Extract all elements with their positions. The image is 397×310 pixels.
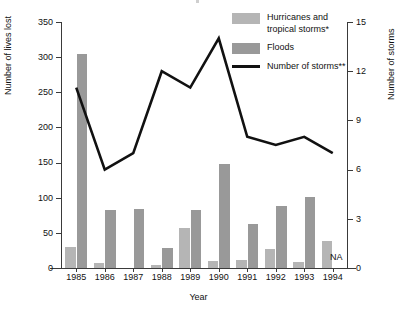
y-right-tick-3: 3 (356, 214, 382, 224)
y-right-tickmark-0 (348, 268, 353, 269)
x-tick-mark-1993 (304, 268, 305, 272)
y-left-tick-150: 150 (27, 157, 53, 167)
y-right-tickmark-9 (348, 120, 353, 121)
x-tick-mark-1989 (190, 268, 191, 272)
x-tick-mark-1991 (247, 268, 248, 272)
legend-item-floods: Floods (232, 42, 352, 54)
y-left-tick-100: 100 (27, 193, 53, 203)
legend-item-storms: Number of storms** (232, 61, 352, 73)
legend-swatch-hurricanes-icon (232, 13, 260, 24)
y-left-tickmark-200 (56, 127, 61, 128)
y-left-tick-200: 200 (27, 122, 53, 132)
legend-label-storms: Number of storms** (267, 61, 346, 73)
y-right-tick-9: 9 (356, 115, 382, 125)
y-left-tickmark-300 (56, 57, 61, 58)
y-left-tick-0: 0 (27, 263, 53, 273)
y-left-tick-50: 50 (27, 228, 53, 238)
y-left-tick-350: 350 (27, 17, 53, 27)
x-tick-mark-1990 (219, 268, 220, 272)
x-tick-mark-1992 (276, 268, 277, 272)
y-right-tick-12: 12 (356, 66, 382, 76)
y-axis-left-title: Number of lives lost (3, 16, 13, 95)
y-right-tick-15: 15 (356, 17, 382, 27)
legend-item-hurricanes: Hurricanes and tropical storms* (232, 12, 352, 35)
y-left-tickmark-100 (56, 198, 61, 199)
x-tick-mark-1988 (162, 268, 163, 272)
page-artifact-mark (196, 0, 199, 3)
x-axis-title: Year (0, 292, 397, 302)
y-left-tick-250: 250 (27, 87, 53, 97)
x-tick-mark-1986 (105, 268, 106, 272)
y-left-tickmark-250 (56, 92, 61, 93)
y-axis-right-title: Number of storms (386, 28, 396, 100)
y-left-tickmark-350 (56, 22, 61, 23)
hurricanes-floods-chart: Number of lives lost Number of storms Ye… (0, 0, 397, 310)
legend-label-hurricanes: Hurricanes and tropical storms* (267, 12, 352, 35)
na-annotation: NA (330, 252, 343, 262)
x-tick-label-1994: 1994 (313, 272, 353, 282)
x-axis-line (50, 268, 356, 269)
y-right-tickmark-6 (348, 170, 353, 171)
legend-label-floods: Floods (267, 42, 294, 54)
y-left-tickmark-0 (56, 268, 61, 269)
x-tick-mark-1985 (76, 268, 77, 272)
y-left-tick-300: 300 (27, 52, 53, 62)
x-tick-mark-1994 (333, 268, 334, 272)
legend-swatch-floods-icon (232, 43, 260, 54)
y-right-tickmark-3 (348, 219, 353, 220)
y-right-tick-6: 6 (356, 164, 382, 174)
legend-line-storms-icon (232, 61, 260, 72)
y-left-tickmark-50 (56, 233, 61, 234)
x-tick-mark-1987 (133, 268, 134, 272)
y-left-tickmark-150 (56, 163, 61, 164)
chart-legend: Hurricanes and tropical storms* Floods N… (232, 12, 352, 80)
y-right-tick-0: 0 (356, 263, 382, 273)
